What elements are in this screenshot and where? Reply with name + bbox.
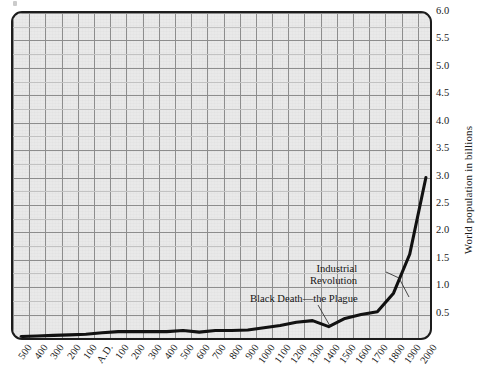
x-axis-tick-label: 400 [162,342,180,361]
x-axis-tick-label: 500 [16,342,34,361]
x-axis-tick-label: 1900 [402,342,423,366]
annotation-industrial-revolution: Industrial Revolution [310,263,357,286]
x-axis-tick-label: 1100 [272,342,293,365]
y-axis-title-text: World population in billions [462,126,474,254]
x-axis-tick-label: 500 [178,342,196,361]
x-axis-tick-label: 300 [48,342,66,361]
x-axis-tick-label: 1500 [337,342,358,366]
x-axis-tick-label: 1800 [385,342,406,366]
x-axis-tick-label: 2000 [418,342,439,366]
annotation-industrial-line2: Revolution [310,275,357,287]
x-axis-tick-label: A.D. [94,342,115,365]
corner-registration-mark [13,1,17,6]
x-axis-tick-label: 200 [129,342,147,361]
x-axis-tick-label: 300 [146,342,164,361]
world-population-line [21,178,426,337]
world-population-chart: 0.51.01.52.02.53.03.54.04.55.05.56.0 Wor… [0,0,487,380]
x-axis-tick-label: 1000 [256,342,277,366]
x-axis-tick-label: 1200 [288,342,309,366]
annotation-industrial-line1: Industrial [310,263,357,275]
x-axis-tick-label: 1600 [353,342,374,366]
x-axis-tick-label: 200 [65,342,83,361]
x-axis-tick-label: 100 [113,342,131,361]
x-axis-tick-label: 800 [227,342,245,361]
x-axis-tick-label: 600 [194,342,212,361]
annotation-black-death: Black Death—the Plague [250,293,358,305]
x-axis-tick-label: 1700 [369,342,390,366]
data-line-layer [13,13,432,340]
x-axis-tick-label: 1300 [305,342,326,366]
x-axis-tick-label: 1400 [321,342,342,366]
x-axis-tick-label: 400 [32,342,50,361]
x-axis-tick-label: 700 [210,342,228,361]
plot-area [11,11,432,340]
x-axis-tick-labels: 500400300200100A.D.100200300400500600700… [0,342,487,380]
y-axis-title: World population in billions [455,0,481,380]
